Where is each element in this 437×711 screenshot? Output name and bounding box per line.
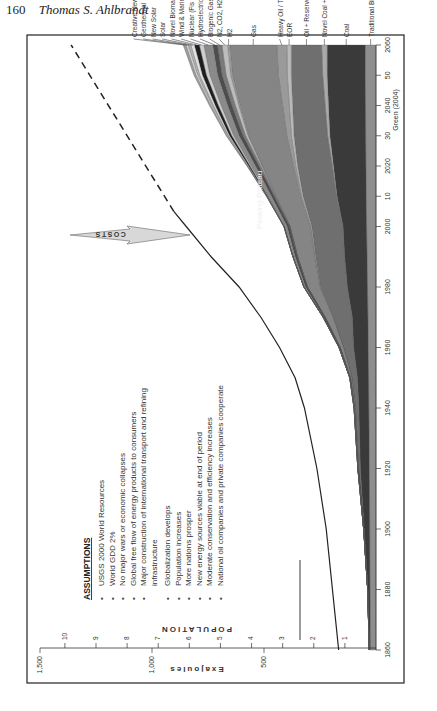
legend-label: Geothermal <box>140 2 147 37</box>
x-tick-label: 1920 <box>384 461 391 477</box>
legend-label: New Solar <box>150 6 157 37</box>
source-credit: Green (2004) <box>392 89 400 131</box>
y2-tick-label: 8 <box>123 636 130 640</box>
x-tick-label: 1880 <box>384 582 391 598</box>
legend-label: N2, CO2, H2S Gas <box>216 0 223 37</box>
assumption-item: Population increases <box>174 512 183 586</box>
legend-label: Oil + Reserve Growth <box>303 0 310 37</box>
y-tick-label: 500 <box>260 656 267 668</box>
rotated-plot: Traditional BiomassCoalNovel Coal + CH4O… <box>36 0 400 674</box>
assumptions-title: ASSUMPTIONS <box>82 537 92 600</box>
assumption-item: National oil companies and private compa… <box>216 384 225 586</box>
y2-tick-label: 2 <box>309 636 316 640</box>
x-tick-label: 1900 <box>384 521 391 537</box>
legend-label: Wind & Marine Currents <box>178 0 185 37</box>
x-tick-label: 50 <box>384 71 391 79</box>
costs-arrow-icon <box>70 226 190 244</box>
assumption-item: Major construction of international tran… <box>139 388 148 586</box>
y2-tick-label: 5 <box>216 636 223 640</box>
legend-label: Creative New Sources <box>131 0 138 37</box>
x-tick-label: 2040 <box>384 98 391 114</box>
assumption-bullet: • <box>174 597 183 600</box>
legend-label: Novel Biomass <box>169 0 176 37</box>
y2-tick-label: 10 <box>61 632 68 640</box>
legend-tick <box>143 39 187 45</box>
assumption-bullet: • <box>139 597 148 600</box>
x-tick-label: 1860 <box>384 642 391 658</box>
assumption-bullet: • <box>97 597 106 600</box>
legend-tick <box>200 39 215 45</box>
legend-label: Coal <box>343 23 350 37</box>
peaking-plateau-label: Peaking Plateau <box>255 171 264 229</box>
legend-label: Traditional Biomass <box>368 0 375 37</box>
assumption-item: Globalization develops <box>163 506 172 587</box>
assumption-bullet: • <box>108 597 117 600</box>
legend-tick <box>210 39 220 45</box>
assumption-item: More nations prosper <box>184 510 193 586</box>
assumption-item: Moderate conservation and efficiency inc… <box>205 417 214 586</box>
legend-label: Biogenic Gas <box>207 0 215 37</box>
costs-label: COSTS <box>94 231 126 238</box>
assumption-bullet: • <box>195 597 204 600</box>
x-tick-label: 30 <box>384 132 391 140</box>
assumption-item: infrastructure <box>150 539 159 586</box>
y2-tick-label: 4 <box>247 636 254 640</box>
legend-tick <box>280 39 282 45</box>
assumption-bullet: • <box>184 597 193 600</box>
assumption-bullet: • <box>163 597 172 600</box>
assumption-bullet: • <box>129 597 138 600</box>
x-tick-label: 2060 <box>384 37 391 53</box>
legend-label: H2 <box>226 28 233 37</box>
x-tick-label: 1940 <box>384 400 391 416</box>
y-axis-label: Exajoules <box>168 665 223 674</box>
assumption-item: New energy sources viable at end of peri… <box>195 432 204 586</box>
legend-label: Hydroelectric <box>197 0 205 37</box>
assumption-item: World GDD 2% <box>108 531 117 586</box>
x-tick-label: 2000 <box>384 219 391 235</box>
y2-tick-label: 3 <box>278 636 285 640</box>
x-tick-label: 1980 <box>384 279 391 295</box>
legend-label: Heavy Oil / Tar <box>277 0 285 37</box>
assumption-bullet: • <box>118 597 127 600</box>
legend-label: Nuclear (Fis Fu) <box>188 0 196 37</box>
legend-tick <box>219 39 225 45</box>
y2-tick-label: 6 <box>185 636 192 640</box>
assumption-item: USGS 2000 World Resources <box>97 480 106 586</box>
y2-tick-label: 7 <box>154 636 161 640</box>
y-tick-label: 1,500 <box>36 656 43 674</box>
energy-chart: Traditional BiomassCoalNovel Coal + CH4O… <box>0 0 437 711</box>
assumption-item: No major wars or economic collapses <box>118 453 127 586</box>
x-tick-label: 1960 <box>384 340 391 356</box>
assumption-item: Global free flow of energy products to c… <box>129 412 138 586</box>
y2-axis-label: POPULATION <box>160 625 232 634</box>
legend-label: Novel Coal + CH4 <box>321 0 328 37</box>
legend-label: Gas <box>250 24 257 37</box>
legend-label: Solar <box>159 21 166 37</box>
y-tick-label: 1,000 <box>148 656 155 674</box>
legend-label: EOR <box>286 23 293 37</box>
assumption-bullet: • <box>205 597 214 600</box>
y2-tick-label: 9 <box>92 636 99 640</box>
y2-tick-label: 1 <box>341 636 348 640</box>
x-tick-label: 2020 <box>384 158 391 174</box>
assumption-bullet: • <box>216 597 225 600</box>
x-tick-label: 10 <box>384 192 391 200</box>
population-projection-dashed <box>71 45 174 211</box>
